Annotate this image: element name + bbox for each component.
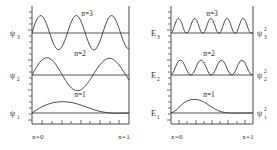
psi-3-sq-base: ψ (257, 29, 262, 38)
psi-1-sq-subscript: 1 (264, 114, 267, 120)
E-1-subscript: 1 (157, 114, 160, 120)
psi-2-sq-superscript: 2 (264, 68, 267, 74)
curve-psi-1-squared (171, 99, 253, 113)
psi-1-base: ψ (10, 109, 15, 118)
psi-2-sq-base: ψ (257, 71, 262, 80)
E-2-subscript: 2 (157, 76, 160, 82)
right-axis-label-psi-1-squared: ψ 1 2 (257, 106, 267, 120)
psi-3-base: ψ (10, 29, 15, 38)
curve-label-n1: n=1 (74, 90, 86, 99)
x-right-label: x=1 (118, 133, 130, 141)
y-axis-label-E1: E 1 (151, 109, 160, 120)
x-right-label: x=1 (242, 133, 254, 141)
y-axis-label-E3: E 3 (151, 29, 160, 40)
psi-1-sq-base: ψ (257, 109, 262, 118)
x-left-label: x=0 (171, 133, 183, 141)
x-axis-ticks (42, 120, 119, 124)
E-3-base: E (151, 29, 156, 38)
psi-3-sq-subscript: 3 (264, 34, 267, 40)
right-axis-label-psi-3-squared: ψ 3 2 (257, 26, 267, 40)
psi-1-sq-superscript: 2 (264, 106, 267, 112)
probability-density-plot: n=3 n=2 n=1 E 3 E 2 E 1 ψ 3 2 (139, 0, 277, 150)
y-axis-label-E2: E 2 (151, 71, 160, 82)
curve-label-n1: n=1 (203, 90, 215, 99)
curve-psi-2-squared (171, 60, 253, 75)
E-2-base: E (151, 71, 156, 80)
psi-3-subscript: 3 (17, 34, 20, 40)
infinite-square-well-figure: n=3 n=2 n=1 ψ 3 ψ 2 ψ 1 x=0 x=1 (0, 0, 277, 150)
E-3-subscript: 3 (157, 34, 160, 40)
E-1-base: E (151, 109, 156, 118)
curve-label-n2: n=2 (74, 49, 86, 58)
psi-2-base: ψ (10, 71, 15, 80)
y-axis-label-psi-3: ψ 3 (10, 29, 20, 40)
y-axis-label-psi-1: ψ 1 (10, 109, 20, 120)
x-left-label: x=0 (32, 133, 44, 141)
curve-psi-2 (32, 58, 129, 91)
y-axis-ticks (167, 12, 171, 120)
curve-label-n2: n=2 (203, 49, 215, 58)
curve-label-n3: n=3 (206, 9, 218, 18)
wavefunction-plot: n=3 n=2 n=1 ψ 3 ψ 2 ψ 1 x=0 x=1 (0, 0, 138, 150)
psi-2-sq-subscript: 2 (264, 76, 267, 82)
psi-2-subscript: 2 (17, 76, 20, 82)
curve-psi-3-squared (171, 19, 253, 33)
y-axis-ticks (28, 12, 32, 120)
curve-psi-1 (32, 102, 129, 114)
y-axis-label-psi-2: ψ 2 (10, 71, 20, 82)
right-axis-label-psi-2-squared: ψ 2 2 (257, 68, 267, 82)
curve-label-n3: n=3 (81, 9, 93, 18)
psi-3-sq-superscript: 2 (264, 26, 267, 32)
psi-1-subscript: 1 (17, 114, 20, 120)
wavefunction-panel: n=3 n=2 n=1 ψ 3 ψ 2 ψ 1 x=0 x=1 (0, 0, 138, 150)
probability-density-panel: n=3 n=2 n=1 E 3 E 2 E 1 ψ 3 2 (139, 0, 277, 150)
x-axis-ticks (179, 120, 245, 124)
